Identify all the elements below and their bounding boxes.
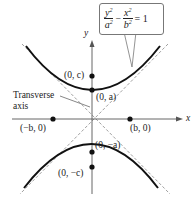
y-axis-label: y [84,29,88,39]
point-0-neg-c [89,164,94,169]
equation-callout: y2 a2 − x2 b2 = 1 [99,3,164,35]
point-neg-b-0 [50,116,55,121]
hyperbola-diagram [0,0,195,207]
point-0-a [89,87,94,92]
x-axis-arrow [176,117,183,122]
fraction-x-over-b: x2 b2 [123,7,132,30]
x-axis-label: x [186,114,190,124]
hyperbola-upper-branch [26,46,160,90]
fraction-y-over-a: y2 a2 [104,7,113,30]
exponent: 2 [129,7,132,13]
y-axis-arrow [90,40,95,47]
exponent: 2 [129,19,132,25]
exponent: 2 [109,7,112,13]
callout-pointer [124,32,136,67]
transverse-axis-label-line2: axis [13,102,28,112]
label-0-neg-c: (0, −c) [58,169,83,179]
point-b-0 [127,116,132,121]
label-0-neg-a: (0, −a) [95,141,120,151]
label-0-c: (0, c) [64,71,84,81]
exponent: 2 [110,19,113,25]
equals-one: = 1 [135,13,148,24]
label-b-0: (b, 0) [130,124,151,134]
minus-sign: − [115,13,121,24]
transverse-axis-label-line1: Transverse [13,91,54,101]
point-0-neg-a [89,149,94,154]
label-0-a: (0, a) [96,93,116,103]
label-neg-b-0: (−b, 0) [20,124,46,134]
hyperbola-equation: y2 a2 − x2 b2 = 1 [104,7,148,30]
point-0-c [89,73,94,78]
